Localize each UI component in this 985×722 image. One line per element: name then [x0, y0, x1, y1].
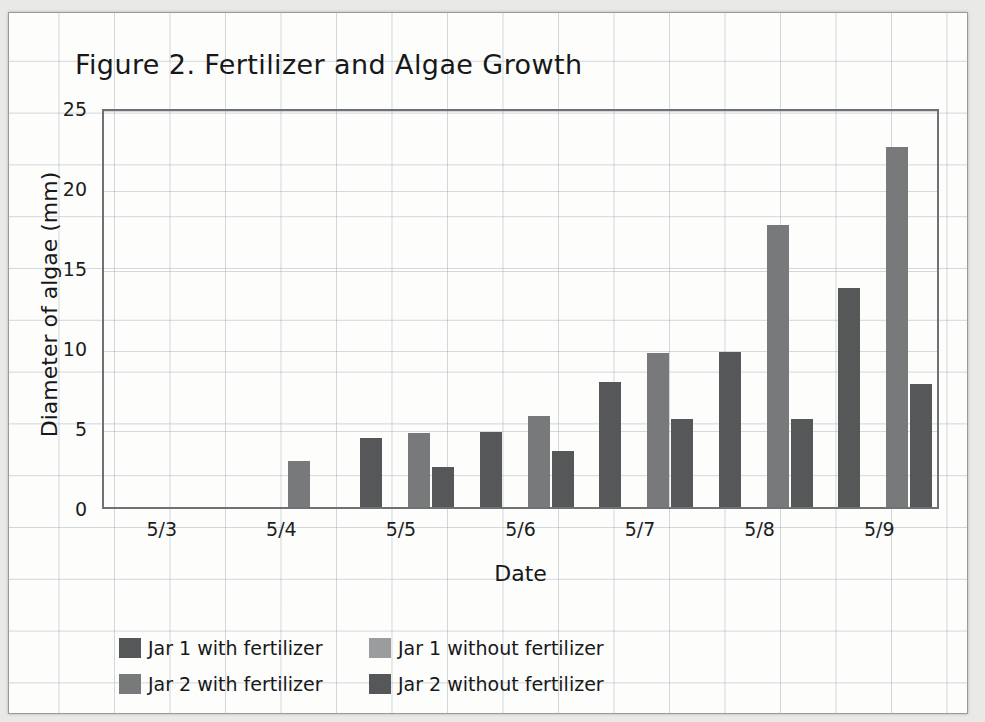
bar	[360, 438, 382, 507]
legend-item[interactable]: Jar 2 with fertilizer	[119, 673, 369, 695]
bar	[791, 419, 813, 507]
x-tick-label: 5/4	[266, 518, 297, 540]
x-tick-label: 5/8	[744, 518, 775, 540]
y-tick-label: 20	[63, 178, 87, 200]
chart-legend: Jar 1 with fertilizerJar 1 without ferti…	[119, 637, 679, 695]
bar	[671, 419, 693, 507]
legend-item[interactable]: Jar 2 without fertilizer	[369, 673, 679, 695]
y-tick-label: 0	[75, 498, 87, 520]
bar	[552, 451, 574, 507]
bar	[432, 467, 454, 507]
bar	[599, 382, 621, 507]
bar	[767, 225, 789, 507]
figure-bar-chart: Figure 2. Fertilizer and Algae Growth Di…	[9, 13, 967, 713]
x-tick-label: 5/6	[505, 518, 536, 540]
gridline-horizontal	[104, 191, 937, 192]
gridline-horizontal	[104, 351, 937, 352]
legend-swatch	[119, 638, 141, 658]
y-tick-label: 15	[63, 258, 87, 280]
bar	[288, 461, 310, 507]
legend-label: Jar 1 without fertilizer	[398, 637, 604, 659]
legend-label: Jar 2 with fertilizer	[148, 673, 323, 695]
gridline-horizontal	[104, 271, 937, 272]
gridline-horizontal	[104, 111, 937, 112]
chart-title: Figure 2. Fertilizer and Algae Growth	[75, 49, 582, 80]
legend-swatch	[369, 674, 391, 694]
bar	[528, 416, 550, 507]
legend-swatch	[369, 638, 391, 658]
legend-swatch	[119, 674, 141, 694]
scanned-graph-paper-page: Figure 2. Fertilizer and Algae Growth Di…	[8, 12, 968, 714]
x-tick-label: 5/5	[386, 518, 417, 540]
x-tick-label: 5/9	[864, 518, 895, 540]
bar	[647, 353, 669, 507]
bars-container	[104, 111, 937, 507]
plot-area	[102, 109, 939, 509]
bar	[480, 432, 502, 507]
legend-label: Jar 2 without fertilizer	[398, 673, 604, 695]
y-axis-ticks: 0510152025	[9, 109, 95, 509]
y-tick-label: 25	[63, 98, 87, 120]
bar	[719, 352, 741, 507]
x-tick-label: 5/3	[146, 518, 177, 540]
x-tick-label: 5/7	[625, 518, 656, 540]
bar	[408, 433, 430, 507]
legend-item[interactable]: Jar 1 without fertilizer	[369, 637, 679, 659]
x-axis-ticks: 5/35/45/55/65/75/85/9	[102, 518, 939, 552]
y-tick-label: 5	[75, 418, 87, 440]
bar	[910, 384, 932, 507]
y-tick-label: 10	[63, 338, 87, 360]
x-axis-label: Date	[102, 561, 939, 586]
bar	[838, 288, 860, 507]
bar	[886, 147, 908, 507]
legend-label: Jar 1 with fertilizer	[148, 637, 323, 659]
legend-item[interactable]: Jar 1 with fertilizer	[119, 637, 369, 659]
